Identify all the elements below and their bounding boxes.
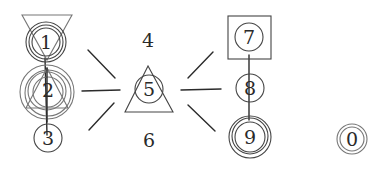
rays-left — [82, 50, 120, 130]
node-7-label: 7 — [243, 26, 255, 48]
node-2: 2 — [20, 65, 74, 122]
node-0-label: 0 — [346, 128, 358, 150]
node-7: 7 — [228, 16, 271, 59]
node-3-label: 3 — [42, 127, 54, 149]
node-5: 5 — [125, 66, 173, 112]
rays-right — [181, 52, 221, 131]
diagram-canvas: 1 2 3 4 5 6 7 — [0, 0, 387, 174]
node-3: 3 — [34, 124, 62, 152]
node-8: 8 — [236, 74, 264, 102]
node-9-label: 9 — [244, 126, 256, 148]
node-5-label: 5 — [143, 78, 155, 100]
node-2-label: 2 — [42, 79, 54, 101]
node-1-label: 1 — [40, 31, 52, 53]
node-0: 0 — [337, 124, 367, 154]
node-1: 1 — [22, 15, 72, 62]
node-4-label: 4 — [142, 29, 154, 51]
node-6-label: 6 — [143, 129, 155, 151]
node-8-label: 8 — [244, 77, 256, 99]
node-9: 9 — [229, 116, 271, 158]
